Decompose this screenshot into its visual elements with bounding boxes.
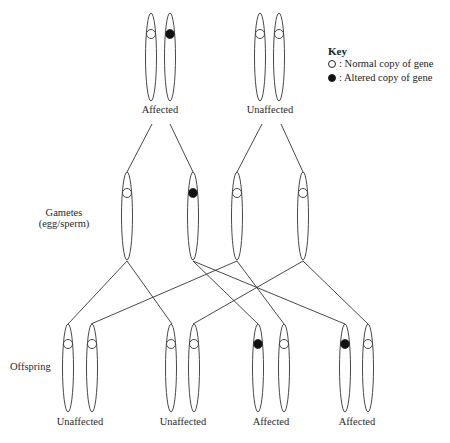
gamete-offspring-lines [68, 261, 368, 324]
filled-circle-icon [328, 74, 336, 82]
chromosome [232, 172, 243, 260]
chromosome [87, 324, 98, 412]
key: Key : Normal copy of gene : Altered copy… [328, 45, 433, 85]
altered-gene-icon [341, 340, 350, 349]
key-item-label: : Normal copy of gene [339, 57, 433, 71]
chromosome [188, 172, 199, 260]
offspring-1-label: Unaffected [57, 416, 103, 427]
chromosome [253, 324, 264, 412]
offspring-chromosomes [63, 324, 374, 412]
normal-gene-icon [364, 340, 373, 349]
normal-gene-icon [88, 340, 97, 349]
chromosome [279, 324, 290, 412]
normal-gene-icon [299, 189, 308, 198]
offspring-3-label: Affected [253, 416, 290, 427]
chromosome [165, 13, 176, 101]
key-item-label: : Altered copy of gene [339, 71, 432, 85]
normal-gene-icon [190, 340, 199, 349]
chromosome [274, 13, 285, 101]
chromosome [255, 13, 266, 101]
chromosome [122, 172, 133, 260]
chromosome [363, 324, 374, 412]
parent-affected-chromosomes [146, 13, 176, 101]
offspring-2-label: Unaffected [160, 416, 206, 427]
chromosome [340, 324, 351, 412]
offspring-label: Offspring [10, 361, 51, 372]
chromosome [63, 324, 74, 412]
chromosome [298, 172, 309, 260]
gametes-label: Gametes (egg/sperm) [39, 207, 90, 229]
altered-gene-icon [166, 30, 175, 39]
chromosome [146, 13, 157, 101]
normal-gene-icon [167, 340, 176, 349]
parent-unaffected-chromosomes [255, 13, 285, 101]
parent-gamete-lines [127, 124, 303, 172]
key-item-normal: : Normal copy of gene [328, 57, 433, 71]
normal-gene-icon [123, 189, 132, 198]
parent-unaffected-label: Unaffected [247, 104, 293, 115]
normal-gene-icon [275, 30, 284, 39]
parent-affected-label: Affected [142, 104, 179, 115]
altered-gene-icon [189, 189, 198, 198]
normal-gene-icon [233, 189, 242, 198]
open-circle-icon [328, 60, 336, 68]
offspring-4-label: Affected [339, 416, 376, 427]
chromosome [189, 324, 200, 412]
normal-gene-icon [147, 30, 156, 39]
normal-gene-icon [280, 340, 289, 349]
gametes-label-line2: (egg/sperm) [39, 218, 90, 229]
normal-gene-icon [64, 340, 73, 349]
chromosome [166, 324, 177, 412]
key-item-altered: : Altered copy of gene [328, 71, 433, 85]
normal-gene-icon [256, 30, 265, 39]
key-title: Key [328, 45, 433, 57]
gamete-chromosomes [122, 172, 309, 260]
gametes-label-line1: Gametes [39, 207, 90, 218]
altered-gene-icon [254, 340, 263, 349]
